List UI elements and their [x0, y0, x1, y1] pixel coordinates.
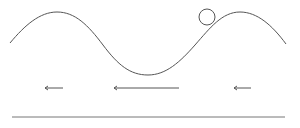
diagram-svg [0, 0, 300, 128]
left-arrow-icon [114, 86, 179, 90]
left-arrow-icon [45, 86, 63, 90]
arrows-group [45, 86, 251, 90]
ball [199, 9, 215, 25]
diagram-canvas [0, 0, 300, 128]
wave-track [10, 12, 286, 75]
left-arrow-icon [234, 86, 251, 90]
